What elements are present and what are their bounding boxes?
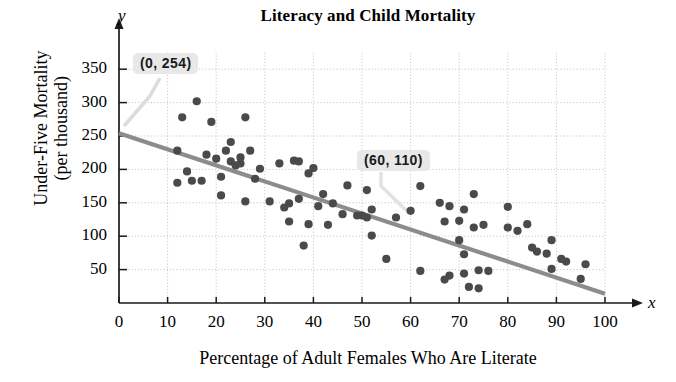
y-tick-label: 200 <box>57 158 107 178</box>
x-tick-label: 70 <box>434 312 484 332</box>
x-tick-label: 20 <box>191 312 241 332</box>
x-tick-label: 10 <box>143 312 193 332</box>
y-tick-label: 50 <box>57 259 107 279</box>
y-tick-label: 350 <box>57 58 107 78</box>
chart-figure: Literacy and Child Mortality y x Under-F… <box>0 0 676 382</box>
y-axis-title-line1: Under-Five Mortality <box>31 13 51 243</box>
x-tick-label: 80 <box>483 312 533 332</box>
x-tick-label: 0 <box>94 312 144 332</box>
y-tick-label: 300 <box>57 92 107 112</box>
x-tick-label: 100 <box>580 312 630 332</box>
x-tick-label: 50 <box>337 312 387 332</box>
annotation-callout-intercept: (0, 254) <box>133 53 198 74</box>
y-tick-label: 250 <box>57 125 107 145</box>
x-axis-title: Percentage of Adult Females Who Are Lite… <box>118 348 618 369</box>
data-points <box>173 97 589 292</box>
x-tick-label: 40 <box>288 312 338 332</box>
y-tick-label: 150 <box>57 192 107 212</box>
y-tick-label: 100 <box>57 225 107 245</box>
x-axis-variable-label: x <box>648 293 656 313</box>
x-tick-label: 60 <box>386 312 436 332</box>
y-axis-variable-label: y <box>118 6 126 26</box>
x-tick-label: 90 <box>531 312 581 332</box>
x-tick-label: 30 <box>240 312 290 332</box>
annotation-callout-second-point: (60, 110) <box>357 150 430 171</box>
